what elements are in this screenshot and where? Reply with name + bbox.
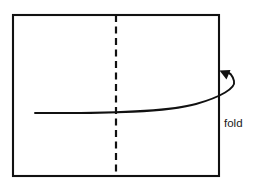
fold-label: fold xyxy=(224,117,243,129)
paper-fold-diagram: fold xyxy=(0,0,267,185)
fold-arrow-head-icon xyxy=(220,70,231,80)
diagram-canvas: fold xyxy=(0,0,267,185)
